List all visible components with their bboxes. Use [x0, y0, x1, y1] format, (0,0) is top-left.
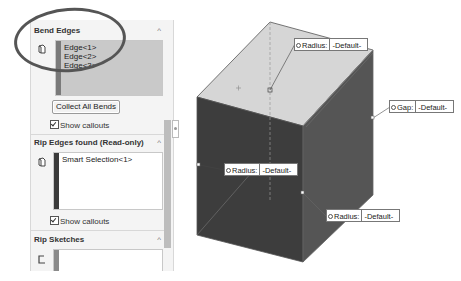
- callout-radius-bottom[interactable]: Radius: -Default-: [326, 209, 400, 222]
- callout-label: Radius:: [327, 210, 362, 221]
- callout-label: Gap:: [390, 101, 416, 112]
- callout-gap[interactable]: Gap: -Default-: [389, 100, 454, 113]
- front-face[interactable]: [197, 97, 303, 262]
- callout-value[interactable]: -Default-: [362, 210, 399, 221]
- callout-value[interactable]: -Default-: [260, 164, 297, 175]
- callout-label: Radius:: [295, 39, 330, 50]
- callout-label: Radius:: [225, 164, 260, 175]
- callout-value[interactable]: -Default-: [416, 101, 453, 112]
- graphics-viewport[interactable]: [0, 0, 461, 281]
- callout-radius-top[interactable]: Radius: -Default-: [294, 38, 368, 51]
- callout-radius-front[interactable]: Radius: -Default-: [224, 163, 298, 176]
- callout-value[interactable]: -Default-: [330, 39, 367, 50]
